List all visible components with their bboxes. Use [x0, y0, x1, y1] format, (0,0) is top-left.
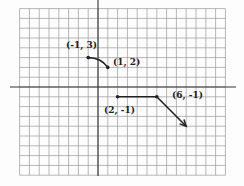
- point-labels: (-1, 3) (1, 2) (2, -1) (6, -1): [66, 40, 203, 116]
- label-point-neg1-3: (-1, 3): [66, 40, 97, 51]
- arrow-segment: [157, 97, 186, 126]
- label-point-6-neg1: (6, -1): [172, 90, 203, 101]
- plot-area: (-1, 3) (1, 2) (2, -1) (6, -1): [0, 0, 244, 186]
- endpoint-dot: [86, 56, 90, 60]
- endpoint-dot: [116, 95, 120, 99]
- label-point-1-2: (1, 2): [113, 57, 140, 68]
- coordinate-graph: (-1, 3) (1, 2) (2, -1) (6, -1): [0, 0, 244, 186]
- label-point-2-neg1: (2, -1): [104, 105, 135, 116]
- endpoint-dot: [106, 66, 110, 70]
- axes: [10, 0, 236, 176]
